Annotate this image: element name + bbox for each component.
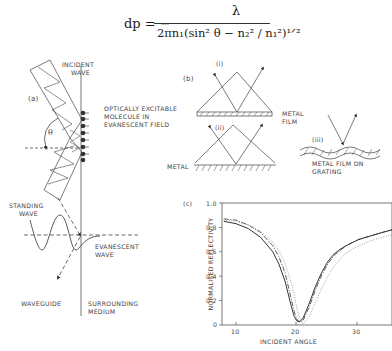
xtick-20: 20 xyxy=(291,328,299,336)
panel-b-i-prism xyxy=(197,68,272,116)
ytick-1: 1.0 xyxy=(206,200,217,208)
sub-ii-label: (ii) xyxy=(215,124,224,132)
standing-wave-label: STANDINGWAVE xyxy=(9,202,44,218)
panel-a-label: (a) xyxy=(28,95,39,103)
molecule-label: OPTICALLY EXCITABLEMOLECULE INEVANESCENT… xyxy=(104,105,177,129)
x-axis-label: INCIDENT ANGLE xyxy=(260,338,317,346)
theta-label: θ xyxy=(48,129,53,137)
xtick-10: 10 xyxy=(231,328,239,336)
incident-wave-label: INCIDENTWAVE xyxy=(62,61,94,77)
waveguide-label: WAVEGUIDE xyxy=(21,300,61,308)
grating-label: METAL FILM ONGRATING xyxy=(312,160,364,176)
chart-axes xyxy=(219,203,392,325)
panel-c-label: (c) xyxy=(183,200,192,208)
panel-b-label: (b) xyxy=(183,75,194,83)
series-solid xyxy=(224,221,392,321)
sub-i-label: (i) xyxy=(216,60,223,68)
panel-b-ii-prism xyxy=(194,125,276,171)
chart-series-lines xyxy=(224,219,392,324)
metal-label: METAL xyxy=(167,163,189,171)
panel-a-waveguide-diagram xyxy=(24,60,138,316)
series-dotted xyxy=(224,220,392,324)
y-axis-label: NORMALISED REFLECTIVITY xyxy=(207,209,215,319)
surrounding-medium-label: SURROUNDINGMEDIUM xyxy=(88,300,138,316)
evanescent-wave-label: EVANESCENTWAVE xyxy=(95,243,139,259)
metal-film-label: METALFILM xyxy=(282,110,304,126)
sub-iii-label: (iii) xyxy=(312,136,324,144)
xtick-30: 30 xyxy=(352,328,360,336)
ytick-0: 0 xyxy=(213,321,217,329)
